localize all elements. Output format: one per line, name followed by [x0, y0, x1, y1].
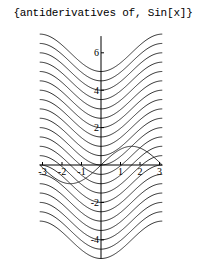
y-tick-label: 2: [94, 122, 99, 133]
x-tick-label: 1: [118, 166, 123, 177]
y-tick-label: 4: [94, 85, 99, 96]
y-tick-label: -4: [91, 234, 99, 245]
x-tick-label: -2: [58, 166, 66, 177]
x-tick-label: 3: [157, 166, 162, 177]
x-tick-label: -3: [38, 166, 46, 177]
x-tick-label: 2: [138, 166, 143, 177]
plot-area: -3-2-1123-4-2246: [0, 0, 206, 278]
x-tick-label: -1: [77, 166, 85, 177]
y-tick-label: 6: [94, 47, 99, 58]
y-tick-label: -2: [91, 197, 99, 208]
